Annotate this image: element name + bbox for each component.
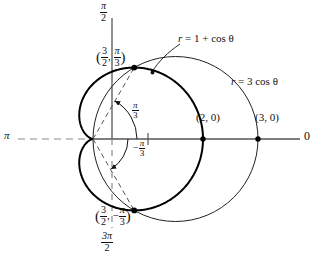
paren-close-upper: ) bbox=[121, 49, 126, 65]
axis-label-pi: π bbox=[4, 130, 10, 142]
point-dot-3-0 bbox=[255, 136, 260, 141]
polar-diagram-svg bbox=[0, 0, 320, 268]
axis-label-3pi-over-2-numerator: 3π bbox=[101, 231, 113, 242]
point-dot-2-0 bbox=[200, 136, 205, 141]
angle-pos-denominator: 3 bbox=[132, 111, 139, 120]
axis-label-zero: 0 bbox=[304, 130, 310, 143]
paren-close-lower: ) bbox=[126, 208, 131, 224]
point-label-lower-intersection: ( 3 2 , − π 3 ) bbox=[95, 206, 131, 227]
angle-neg-denominator: 3 bbox=[139, 149, 146, 158]
equation-label-cardioid: r = 1 + cos θ bbox=[178, 33, 234, 45]
axis-label-pi-over-2-denominator: 2 bbox=[100, 13, 107, 23]
upper-theta-numerator: π bbox=[114, 46, 121, 57]
upper-r-numerator: 3 bbox=[101, 46, 108, 57]
circle-eq-body: = 3 cos θ bbox=[235, 75, 278, 87]
equation-label-circle: r = 3 cos θ bbox=[231, 76, 278, 88]
lower-theta-denominator: 3 bbox=[119, 217, 126, 227]
upper-r-denominator: 2 bbox=[101, 58, 108, 68]
point-label-2-0: (2, 0) bbox=[196, 112, 220, 124]
lower-theta-numerator: π bbox=[119, 205, 126, 216]
point-label-upper-intersection: ( 3 2 , π 3 ) bbox=[96, 47, 126, 68]
angle-label-negative-pi-over-3: − π 3 bbox=[133, 139, 145, 158]
cardioid-eq-body: = 1 + cos θ bbox=[182, 32, 234, 44]
axis-label-3pi-over-2: 3π 2 bbox=[101, 232, 113, 253]
leader-endpoint-dot bbox=[151, 71, 155, 75]
point-label-3-0: (3, 0) bbox=[255, 112, 279, 124]
lower-r-numerator: 3 bbox=[100, 205, 107, 216]
angle-arc-negative bbox=[111, 139, 128, 169]
lower-r-denominator: 2 bbox=[100, 217, 107, 227]
point-dot-lower-intersection bbox=[131, 208, 137, 214]
axis-label-3pi-over-2-denominator: 2 bbox=[101, 243, 113, 253]
axis-label-pi-over-2-numerator: π bbox=[100, 1, 107, 12]
leader-line-cardioid bbox=[152, 44, 180, 72]
axis-label-pi-over-2: π 2 bbox=[100, 2, 107, 23]
angle-label-pi-over-3: π 3 bbox=[132, 101, 139, 120]
figure-canvas: π 2 3π 2 π 0 (2, 0) (3, 0) ( 3 2 , π 3 )… bbox=[0, 0, 320, 268]
point-dot-upper-intersection bbox=[131, 65, 137, 71]
upper-theta-denominator: 3 bbox=[114, 58, 121, 68]
